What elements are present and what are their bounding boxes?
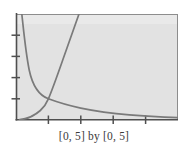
- plot-svg: [0, 0, 188, 128]
- plot-background: [16, 14, 178, 120]
- plot-background-highlight: [16, 14, 178, 24]
- plot-area: [0, 0, 188, 128]
- viewing-window-caption: [0, 5] by [0, 5]: [0, 129, 188, 143]
- graph-figure: [0, 5] by [0, 5]: [0, 0, 188, 149]
